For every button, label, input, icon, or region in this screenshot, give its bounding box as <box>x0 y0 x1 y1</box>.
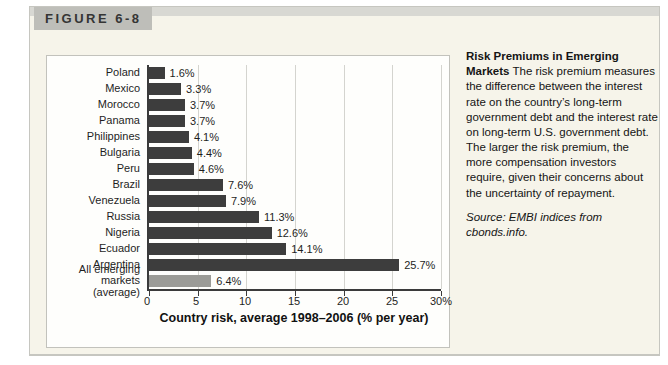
bar-row: 1.6% <box>149 65 441 81</box>
y-axis-label: Panama <box>51 113 147 129</box>
y-axis-labels: PolandMexicoMoroccoPanamaPhilippinesBulg… <box>51 65 147 291</box>
y-axis-label: Mexico <box>51 81 147 97</box>
bar-value-label: 4.4% <box>197 147 222 159</box>
bar-row: 4.1% <box>149 129 441 145</box>
x-tick-label: 5 <box>193 295 199 307</box>
y-axis-label: Bulgaria <box>51 145 147 161</box>
bar <box>149 131 189 143</box>
bar-row: 4.6% <box>149 161 441 177</box>
bar-rows: 1.6%3.3%3.7%3.7%4.1%4.4%4.6%7.6%7.9%11.3… <box>149 65 441 289</box>
x-axis-label: Country risk, average 1998–2006 (% per y… <box>147 311 441 325</box>
y-axis-label: Peru <box>51 161 147 177</box>
y-axis-label: Ecuador <box>51 241 147 257</box>
x-tick-label: 25 <box>386 295 398 307</box>
bar <box>149 259 399 271</box>
caption-column: Risk Premiums in Emerging Markets The ri… <box>466 49 658 240</box>
x-tick <box>392 291 393 296</box>
y-axis-label: Brazil <box>51 177 147 193</box>
y-axis-label: Russia <box>51 209 147 225</box>
bar-value-label: 3.7% <box>190 99 215 111</box>
bar-value-label: 1.6% <box>170 67 195 79</box>
y-axis-label: Morocco <box>51 97 147 113</box>
bar <box>149 275 211 287</box>
bar-row: 7.9% <box>149 193 441 209</box>
bar-row: 12.6% <box>149 225 441 241</box>
bar-row: 6.4% <box>149 273 441 289</box>
x-axis-label-row: Country risk, average 1998–2006 (% per y… <box>51 308 441 325</box>
y-axis-label: Poland <box>51 65 147 81</box>
bar <box>149 179 223 191</box>
x-axis: 051015202530% <box>147 291 441 308</box>
caption-source: Source: EMBI indices from cbonds.info. <box>466 210 658 240</box>
bar-value-label: 4.1% <box>194 131 219 143</box>
gridline <box>441 65 442 289</box>
x-tick <box>198 291 199 296</box>
bar-value-label: 12.6% <box>277 227 308 239</box>
bar-value-label: 7.6% <box>228 179 253 191</box>
y-axis-label: Venezuela <box>51 193 147 209</box>
figure-label-box: FIGURE 6-8 <box>34 7 152 30</box>
x-tick <box>344 291 345 296</box>
bar-value-label: 3.7% <box>190 115 215 127</box>
bar-value-label: 25.7% <box>404 259 435 271</box>
y-axis-label: All emerging markets (average) <box>51 273 147 289</box>
chart-body: PolandMexicoMoroccoPanamaPhilippinesBulg… <box>51 65 441 291</box>
bar-row: 25.7% <box>149 257 441 273</box>
bar-value-label: 11.3% <box>264 211 294 223</box>
x-tick-label: 0 <box>144 295 150 307</box>
bar-row: 3.3% <box>149 81 441 97</box>
bar-value-label: 14.1% <box>291 243 322 255</box>
bar <box>149 67 165 79</box>
bar-row: 3.7% <box>149 97 441 113</box>
x-tick <box>149 291 150 296</box>
bar <box>149 115 185 127</box>
y-axis-label: Philippines <box>51 129 147 145</box>
bar <box>149 195 226 207</box>
bar <box>149 99 185 111</box>
bar <box>149 211 259 223</box>
bar-value-label: 6.4% <box>216 275 241 287</box>
figure-label: FIGURE 6-8 <box>45 11 142 26</box>
x-tick <box>441 291 442 296</box>
bar <box>149 163 194 175</box>
bar-value-label: 3.3% <box>186 83 211 95</box>
bar-row: 7.6% <box>149 177 441 193</box>
bar-row: 11.3% <box>149 209 441 225</box>
bar <box>149 227 272 239</box>
y-axis-label: Nigeria <box>51 225 147 241</box>
chart-panel: PolandMexicoMoroccoPanamaPhilippinesBulg… <box>46 55 450 348</box>
bar <box>149 243 286 255</box>
x-tick-label: 10 <box>239 295 251 307</box>
x-tick <box>295 291 296 296</box>
x-tick-label: 20 <box>337 295 349 307</box>
bar-row: 4.4% <box>149 145 441 161</box>
bar-value-label: 4.6% <box>199 163 224 175</box>
x-tick-label: 15 <box>288 295 300 307</box>
bar-row: 14.1% <box>149 241 441 257</box>
bar <box>149 147 192 159</box>
figure-container: FIGURE 6-8 PolandMexicoMoroccoPanamaPhil… <box>29 6 660 356</box>
x-tick-label: 30% <box>430 295 452 307</box>
x-axis-spacer <box>51 291 147 308</box>
bar-row: 3.7% <box>149 113 441 129</box>
bar-value-label: 7.9% <box>231 195 256 207</box>
plot-area: 1.6%3.3%3.7%3.7%4.1%4.4%4.6%7.6%7.9%11.3… <box>147 65 441 291</box>
x-tick <box>246 291 247 296</box>
bar <box>149 83 181 95</box>
caption-body: The risk premium measures the difference… <box>466 65 658 198</box>
caption-paragraph: Risk Premiums in Emerging Markets The ri… <box>466 49 658 201</box>
